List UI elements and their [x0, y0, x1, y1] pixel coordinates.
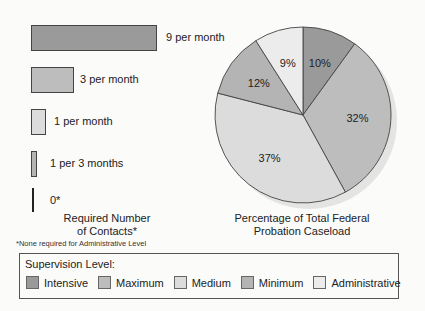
pie-caption-line2: Probation Caseload [222, 225, 382, 238]
legend-swatch-medium [174, 276, 187, 289]
legend-swatch-minimum [241, 276, 254, 289]
legend-item-medium: Medium [174, 276, 231, 289]
pie-caption: Percentage of Total Federal Probation Ca… [222, 212, 382, 238]
legend-items: Intensive Maximum Medium Minimum Adminis… [26, 276, 411, 289]
legend-label: Intensive [44, 277, 88, 289]
pie-caption-line1: Percentage of Total Federal [222, 212, 382, 225]
legend-swatch-maximum [98, 276, 111, 289]
legend-label: Maximum [116, 277, 164, 289]
legend-label: Minimum [259, 277, 304, 289]
legend-title: Supervision Level: [25, 258, 115, 270]
legend-label: Administrative [331, 277, 400, 289]
legend-item-intensive: Intensive [26, 276, 88, 289]
legend-item-minimum: Minimum [241, 276, 304, 289]
legend-swatch-administrative [313, 276, 326, 289]
pie-label-maximum: 32% [346, 112, 368, 124]
legend-label: Medium [192, 277, 231, 289]
legend-item-administrative: Administrative [313, 276, 400, 289]
legend-swatch-intensive [26, 276, 39, 289]
legend-item-maximum: Maximum [98, 276, 164, 289]
pie-label-administrative: 9% [280, 57, 296, 69]
legend: Supervision Level: Intensive Maximum Med… [19, 253, 399, 299]
pie-label-intensive: 10% [309, 57, 331, 69]
pie-label-medium: 37% [259, 152, 281, 164]
pie-label-minimum: 12% [248, 77, 270, 89]
